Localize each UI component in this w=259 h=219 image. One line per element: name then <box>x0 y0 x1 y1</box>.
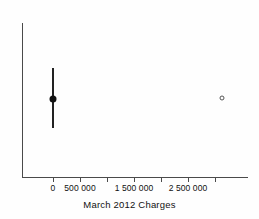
x-axis-tick-label: 0 <box>51 183 56 193</box>
x-axis-tick <box>188 178 189 182</box>
data-point-estimate <box>50 96 57 103</box>
x-axis-tick <box>107 178 108 182</box>
x-axis-tick-label: 2 500 000 <box>169 183 208 193</box>
x-axis-tick <box>161 178 162 182</box>
chart-canvas: 0500 0001 500 0002 500 000 March 2012 Ch… <box>0 0 259 219</box>
x-axis-title: March 2012 Charges <box>0 199 259 210</box>
x-axis-tick <box>53 178 54 182</box>
x-axis-tick-label: 1 500 000 <box>115 183 154 193</box>
x-axis-tick-label: 500 000 <box>64 183 95 193</box>
y-axis-line <box>22 23 23 178</box>
data-point-outlier <box>220 96 225 101</box>
x-axis-tick <box>134 178 135 182</box>
x-axis-tick <box>80 178 81 182</box>
x-axis-tick <box>215 178 216 182</box>
